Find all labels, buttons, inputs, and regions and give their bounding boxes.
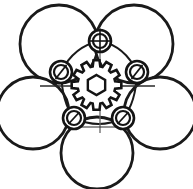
roller-left <box>0 77 69 149</box>
bearing-upper-right <box>126 61 148 83</box>
bearing-upper-left <box>50 61 72 83</box>
bearing-lower-left <box>63 107 85 129</box>
mechanism-drawing <box>0 0 193 189</box>
mechanism-svg <box>0 0 193 189</box>
bearing-lower-right <box>112 107 134 129</box>
roller-right <box>124 77 193 149</box>
bearing-top <box>89 30 111 52</box>
sun-gear-hex-bore <box>88 75 105 95</box>
